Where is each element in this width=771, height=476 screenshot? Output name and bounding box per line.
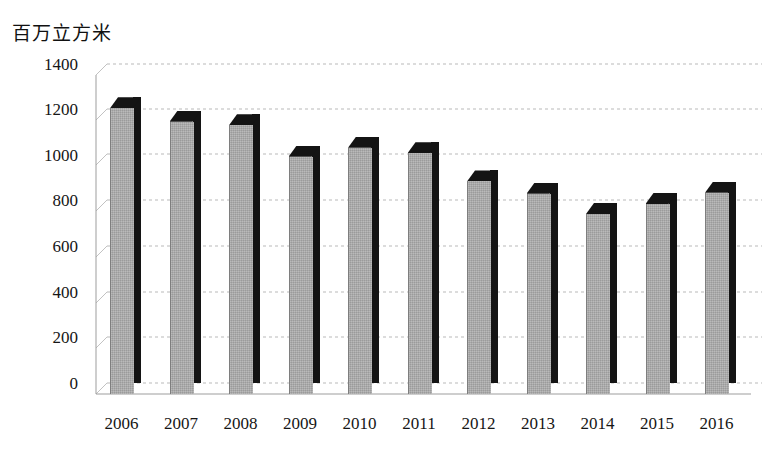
x-tick-label-2009: 2009 (272, 415, 328, 432)
bar-side-face (669, 193, 677, 383)
bar-front-face (467, 181, 491, 394)
x-tick-label-2016: 2016 (689, 415, 745, 432)
x-tick-label-2014: 2014 (570, 415, 626, 432)
bar-front-face (170, 122, 194, 394)
bar-side-face (371, 137, 379, 383)
x-tick-label-2013: 2013 (510, 415, 566, 432)
bar-front-face (348, 148, 372, 394)
bar-side-face (133, 97, 141, 383)
bar-side-face (490, 170, 498, 383)
y-tick-label-0: 0 (18, 375, 78, 392)
y-tick-label-1200: 1200 (18, 101, 78, 118)
bar-front-face (646, 204, 670, 394)
bar-side-face (550, 183, 558, 383)
bar-side-face (728, 182, 736, 383)
bar-2015 (646, 193, 677, 394)
x-tick-label-2008: 2008 (213, 415, 269, 432)
x-tick-label-2012: 2012 (451, 415, 507, 432)
bar-front-face (408, 153, 432, 394)
bar-side-face (312, 146, 320, 383)
bar-side-face (609, 203, 617, 383)
bar-side-face (193, 111, 201, 383)
bar-2016 (705, 182, 736, 394)
bar-2009 (289, 146, 320, 394)
bar-2011 (408, 142, 439, 394)
bar-side-face (431, 142, 439, 383)
bar-2006 (110, 97, 141, 394)
x-tick-label-2007: 2007 (153, 415, 209, 432)
bar-2007 (170, 111, 201, 394)
y-tick-label-1400: 1400 (18, 56, 78, 73)
bar-front-face (527, 194, 551, 394)
y-tick-label-200: 200 (18, 329, 78, 346)
y-tick-label-1000: 1000 (18, 147, 78, 164)
bar-front-face (289, 157, 313, 394)
x-tick-label-2006: 2006 (94, 415, 150, 432)
x-tick-label-2015: 2015 (629, 415, 685, 432)
bar-front-face (110, 108, 134, 394)
bar-chart: 百万立方米 (0, 0, 771, 476)
x-tick-label-2011: 2011 (391, 415, 447, 432)
bar-2014 (586, 203, 617, 394)
bar-front-face (586, 214, 610, 394)
bar-2012 (467, 170, 498, 394)
y-tick-label-600: 600 (18, 238, 78, 255)
bar-front-face (229, 125, 253, 394)
bar-side-face (252, 114, 260, 383)
y-tick-label-800: 800 (18, 192, 78, 209)
x-tick-label-2010: 2010 (332, 415, 388, 432)
bar-2008 (229, 114, 260, 394)
bar-2010 (348, 137, 379, 394)
bar-front-face (705, 193, 729, 394)
y-tick-label-400: 400 (18, 284, 78, 301)
bar-2013 (527, 183, 558, 394)
